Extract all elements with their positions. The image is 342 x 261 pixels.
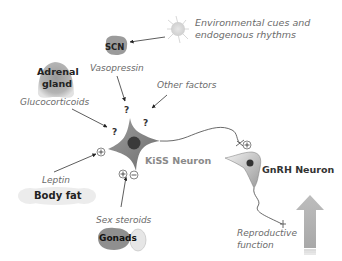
adrenal-label-line1: Adrenal: [37, 66, 79, 77]
question-marker-glucocorticoids: ?: [112, 127, 117, 137]
kiss-axon: [160, 127, 240, 143]
scn-label: SCN: [105, 42, 124, 53]
minus-marker-sex-steroids: [130, 171, 138, 179]
body-fat-label: Body fat: [34, 190, 82, 201]
leptin-label: Leptin: [42, 175, 70, 185]
sex-steroids-label: Sex steroids: [96, 215, 151, 225]
gonads-label: Gonads: [99, 233, 137, 244]
kiss-neuron-label: KiSS Neuron: [145, 155, 211, 166]
kiss-neuron-regulation-diagram: ? ? ? Environmental cues and endogenous …: [0, 0, 342, 261]
plus-marker-kiss-to-gnrh: [243, 141, 251, 149]
up-arrow-icon: [296, 195, 324, 254]
arrow-sex-steroids: [121, 177, 126, 207]
gnrh-neuron-label: GnRH Neuron: [262, 164, 334, 175]
adrenal-label-line2: gland: [42, 78, 72, 89]
plus-marker-sex-steroids: [119, 170, 127, 178]
arrow-environment-to-scn: [130, 37, 165, 42]
question-marker-other-factors: ?: [143, 118, 148, 128]
vasopressin-label: Vasopressin: [90, 63, 144, 73]
environment-label-line2: endogenous rhythms: [195, 30, 296, 40]
reproductive-function-label-line1: Reproductive: [237, 228, 297, 238]
arrow-other-factors: [152, 95, 167, 108]
other-factors-label: Other factors: [157, 80, 216, 90]
arrow-leptin: [54, 154, 96, 172]
question-marker-vasopressin: ?: [124, 105, 129, 115]
sun-icon: [167, 16, 189, 43]
gnrh-terminal: [280, 220, 286, 228]
reproductive-function-label-line2: function: [237, 240, 274, 250]
glucocorticoids-label: Glucocorticoids: [20, 97, 89, 107]
arrow-glucocorticoids: [72, 109, 107, 127]
environment-label-line1: Environmental cues and: [195, 18, 310, 28]
arrow-vasopressin: [117, 76, 125, 101]
plus-marker-leptin: [97, 148, 105, 156]
